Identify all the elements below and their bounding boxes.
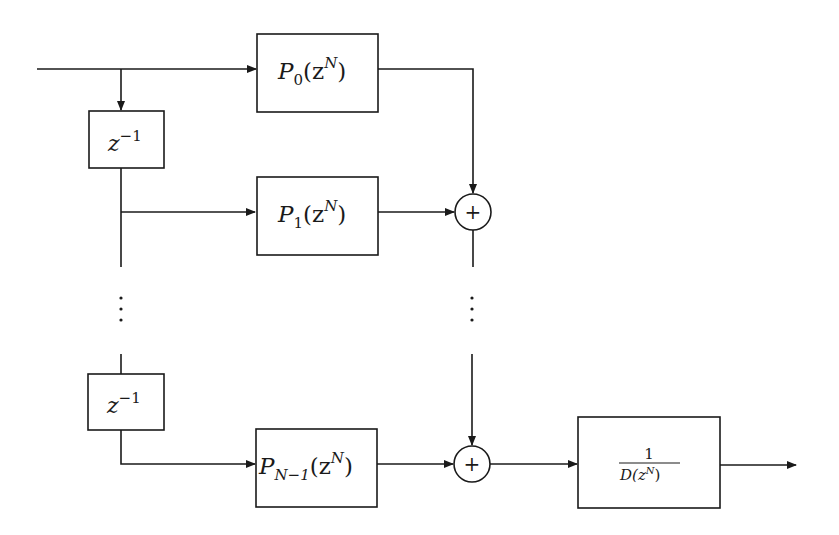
p1-close: ): [337, 201, 346, 227]
delay-chain-ellipsis: [119, 296, 122, 321]
svg-text:D(zN): D(zN): [619, 465, 660, 484]
recursive-numerator: 1: [644, 445, 654, 463]
pn1-base: P: [258, 453, 275, 479]
summing-wires: [377, 69, 796, 465]
polyphase-block-p0: P0(zN): [257, 34, 378, 112]
p0-sup: N: [323, 54, 338, 72]
polyphase-block-diagram: z−1 z−1 P0(zN) P1(zN) PN−1(zN): [0, 0, 839, 535]
p0-close: ): [337, 58, 346, 84]
p1-arg: (z: [303, 201, 324, 227]
delay-top-base: z: [107, 131, 120, 156]
delay-top-sup: −1: [120, 127, 142, 145]
summer-bottom-plus-icon: +: [464, 452, 481, 476]
recursive-denominator: D(z: [619, 466, 646, 484]
polyphase-block-pn-1: PN−1(zN): [256, 429, 377, 507]
p1-sub: 1: [293, 214, 303, 232]
delay-block-top: z−1: [89, 111, 164, 168]
delay-block-bottom: z−1: [88, 374, 164, 430]
summer-top: +: [455, 194, 491, 230]
delay-bottom-base: z: [106, 393, 119, 418]
p0-arg: (z: [303, 58, 324, 84]
recursive-denominator-close: ): [655, 466, 661, 484]
p1-sup: N: [323, 197, 338, 215]
pn1-close: ): [344, 453, 353, 479]
delay-bottom-sup: −1: [119, 389, 141, 407]
p1-base: P: [277, 201, 294, 227]
summer-chain-ellipsis: [470, 296, 473, 321]
pn1-arg: (z: [310, 453, 331, 479]
p0-base: P: [277, 58, 294, 84]
polyphase-block-p1: P1(zN): [257, 177, 378, 255]
summer-bottom: +: [454, 446, 490, 482]
pn1-sup: N: [330, 449, 345, 467]
p0-sub: 0: [293, 71, 303, 89]
recursive-block: 1 D(zN): [578, 417, 720, 508]
summer-top-plus-icon: +: [465, 200, 482, 224]
pn1-sub: N−1: [273, 466, 309, 484]
